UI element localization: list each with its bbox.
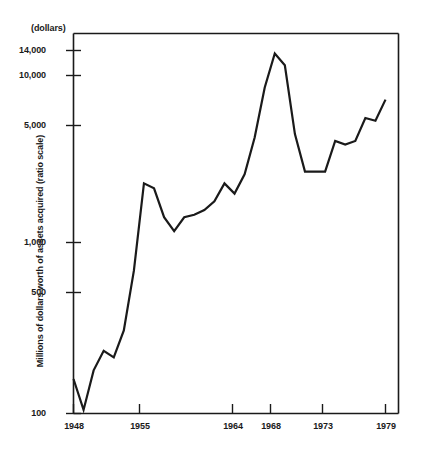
y-axis-label-14000: 14,000: [0, 45, 46, 55]
plot-frame: [74, 34, 399, 414]
x-tick-marks: [74, 404, 386, 413]
chart-figure: (dollars) 14,000 10,000 5,000 1,000 500 …: [0, 0, 429, 454]
data-series-line: [74, 53, 386, 409]
x-axis-label-1964: 1964: [213, 421, 253, 431]
y-axis-label-100: 100: [0, 408, 46, 418]
x-axis-label-1968: 1968: [251, 421, 291, 431]
y-axis-label-10000: 10,000: [0, 70, 46, 80]
y-axis-title: Millions of dollars worth of assets acqu…: [35, 119, 45, 383]
x-axis-label-1973: 1973: [303, 421, 343, 431]
x-axis-label-1948: 1948: [54, 421, 94, 431]
x-axis-label-1979: 1979: [366, 421, 406, 431]
unit-label: (dollars): [31, 23, 66, 33]
chart-plot-area: [0, 0, 429, 454]
x-axis-label-1955: 1955: [120, 421, 160, 431]
